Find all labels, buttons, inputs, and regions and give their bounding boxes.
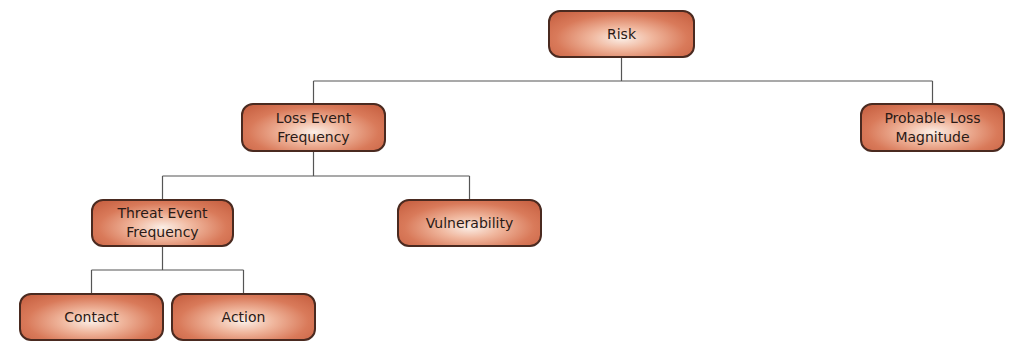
node-contact-label: Contact	[64, 308, 118, 327]
node-vulnerability[interactable]: Vulnerability	[397, 199, 542, 247]
node-threat-event-frequency[interactable]: Threat Event Frequency	[91, 199, 234, 247]
node-action-label: Action	[222, 308, 266, 327]
node-threat-event-frequency-label: Threat Event Frequency	[117, 204, 207, 242]
node-loss-event-frequency[interactable]: Loss Event Frequency	[241, 103, 386, 152]
node-risk[interactable]: Risk	[548, 10, 695, 58]
node-probable-loss-magnitude[interactable]: Probable Loss Magnitude	[860, 103, 1005, 152]
node-action[interactable]: Action	[171, 293, 316, 341]
node-vulnerability-label: Vulnerability	[426, 214, 514, 233]
node-probable-loss-magnitude-label: Probable Loss Magnitude	[884, 109, 980, 147]
node-contact[interactable]: Contact	[19, 293, 164, 341]
node-risk-label: Risk	[607, 25, 636, 44]
node-loss-event-frequency-label: Loss Event Frequency	[276, 109, 351, 147]
